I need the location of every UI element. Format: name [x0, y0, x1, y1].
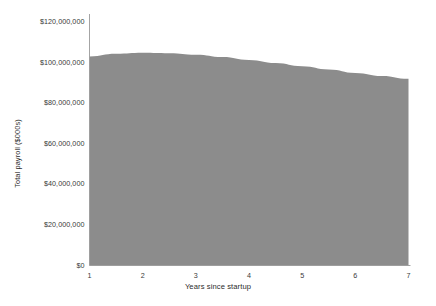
x-tick-label: 2 — [128, 271, 158, 280]
area-series-total-payroll — [90, 53, 409, 266]
x-tick-label: 7 — [394, 271, 424, 280]
y-axis-title-text: Total payroll ($000s) — [13, 119, 22, 188]
x-axis-title-text: Years since startup — [185, 282, 251, 291]
x-tick-label: 4 — [234, 271, 264, 280]
x-tick-label: 5 — [287, 271, 317, 280]
x-axis-title: Years since startup — [0, 282, 436, 291]
y-tick-label: $0 — [0, 261, 85, 270]
y-tick-label: $80,000,000 — [0, 98, 85, 107]
y-tick-label: $40,000,000 — [0, 179, 85, 188]
x-tick-label: 1 — [75, 271, 105, 280]
y-tick-label: $100,000,000 — [0, 58, 85, 67]
area-chart: Total payroll ($000s) Years since startu… — [0, 0, 436, 306]
y-tick-label: $120,000,000 — [0, 17, 85, 26]
y-tick-label: $60,000,000 — [0, 139, 85, 148]
x-tick-label: 6 — [340, 271, 370, 280]
x-tick-label: 3 — [181, 271, 211, 280]
y-tick-label: $20,000,000 — [0, 220, 85, 229]
